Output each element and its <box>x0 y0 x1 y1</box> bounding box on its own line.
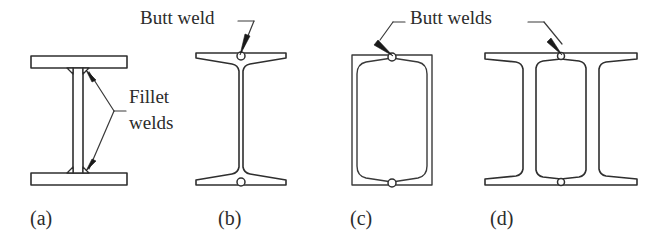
panel-b-section-outline <box>196 53 286 185</box>
caption-c: (c) <box>350 207 372 230</box>
fillet-arrow-bottom <box>86 159 96 171</box>
fillet-arrow-top <box>86 70 96 82</box>
butt-weld-label: Butt weld <box>140 7 215 28</box>
panel-b-butt-leader <box>238 21 254 55</box>
welded-beam-sections-figure: Fillet welds Butt weld <box>0 0 652 235</box>
panel-b-bottom-weld <box>237 178 245 186</box>
butt-welds-label: Butt welds <box>410 7 492 28</box>
panel-a-top-flange <box>31 56 127 68</box>
panel-c-inner-profile <box>357 58 427 182</box>
caption-b: (b) <box>218 207 241 230</box>
panel-a-bottom-flange <box>31 173 127 185</box>
butt-welds-c-leader-line <box>380 22 393 40</box>
panel-c-butt-leader <box>374 22 405 56</box>
panel-d-right-half <box>561 53 637 185</box>
fillet-welds-label-line2: welds <box>129 112 173 133</box>
panel-b-drawing <box>196 52 286 186</box>
panel-d-butt-leader <box>528 22 562 55</box>
panel-a-fillet-leader <box>86 70 126 171</box>
panel-a-fillet-weld-top-left <box>67 68 73 74</box>
panel-c-top-weld <box>388 53 396 61</box>
panel-d-left-half <box>485 53 561 185</box>
butt-weld-b-arrow <box>240 34 250 55</box>
panel-d-drawing <box>485 53 637 186</box>
panel-a-drawing <box>31 56 127 185</box>
panel-c-bottom-weld <box>388 179 396 187</box>
butt-welds-c-arrow <box>374 40 393 56</box>
figure-canvas: Fillet welds Butt weld <box>0 0 652 235</box>
panel-c-drawing <box>352 53 432 187</box>
panel-a-web <box>73 68 83 173</box>
panel-d-bottom-weld <box>558 179 565 186</box>
caption-a: (a) <box>30 207 52 230</box>
panel-a-fillet-weld-bottom-left <box>67 167 73 173</box>
caption-d: (d) <box>490 207 513 230</box>
fillet-welds-label-line1: Fillet <box>129 86 170 107</box>
panel-c-outer-rect <box>352 55 432 185</box>
